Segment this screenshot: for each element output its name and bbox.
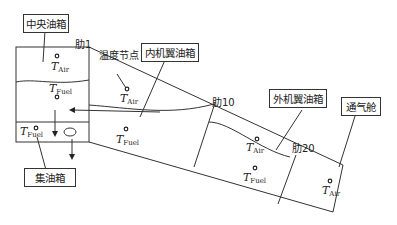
- temp-node-label: 温度节点: [99, 51, 139, 61]
- vent-t-air: TAir: [322, 185, 340, 198]
- node-inner-air: [125, 87, 129, 91]
- temp-node-leader: [117, 74, 126, 88]
- pump-inlet: [64, 128, 76, 136]
- node-vent-air: [328, 179, 332, 183]
- inner-wing-tank-label: 内机翼油箱: [141, 43, 199, 62]
- collector-t-fuel: TFuel: [20, 126, 43, 139]
- inner-fuel-level: [89, 104, 214, 110]
- vent-tank-label: 通气舱: [341, 97, 381, 116]
- central-t-air: TAir: [51, 61, 69, 74]
- rib1-label: 肋1: [75, 36, 91, 51]
- outer-wing-tank-label: 外机翼油箱: [269, 89, 327, 108]
- rib20-label: 肋20: [292, 140, 315, 155]
- node-central-air: [55, 54, 59, 58]
- inner-t-air: TAir: [120, 93, 138, 106]
- rib10-label: 肋10: [212, 94, 235, 109]
- outer-t-fuel: TFuel: [243, 172, 266, 185]
- inner-leader: [140, 60, 165, 117]
- node-outer-air: [255, 137, 259, 141]
- outer-t-air: TAir: [246, 142, 264, 155]
- collector-tank-label: 集油箱: [24, 168, 76, 187]
- node-outer-fuel: [253, 166, 257, 170]
- rib10-line: [194, 103, 215, 167]
- central-tank-label: 中央油箱: [23, 14, 69, 33]
- vent-leader: [339, 113, 356, 167]
- inner-t-fuel: TFuel: [116, 134, 139, 147]
- node-inner-fuel: [124, 127, 128, 131]
- rib20-line: [278, 155, 296, 204]
- central-t-fuel: TFuel: [49, 83, 72, 96]
